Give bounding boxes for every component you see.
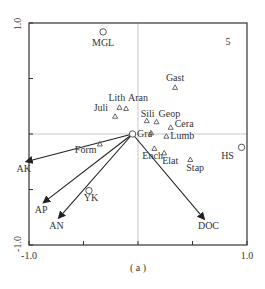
species-lumb: Lumb: [164, 130, 194, 141]
vector-label: AP: [35, 204, 48, 215]
triangle-marker: [144, 118, 149, 123]
species-label: Geop: [159, 108, 181, 119]
species-stap: Stap: [186, 157, 204, 173]
y-tick-min: -1.0: [12, 236, 23, 252]
corner-label: 5: [226, 36, 231, 47]
species-label: Elat: [162, 155, 178, 166]
species-label: Aran: [128, 92, 148, 103]
species-label: Stap: [186, 162, 204, 173]
species-points: GastAranLithJuliSiliGeopCeraGraLumbEnchE…: [75, 72, 204, 172]
species-ench: Ench: [142, 146, 163, 162]
circle-marker: [238, 144, 244, 150]
species-elat: Elat: [162, 150, 179, 166]
species-lith: Lith: [108, 92, 125, 109]
vector-label: AK: [17, 163, 32, 174]
circle-marker: [129, 131, 135, 137]
vector-label: DOC: [198, 220, 219, 231]
species-label: Sili: [141, 108, 155, 119]
site-mgl: MGL: [92, 29, 114, 48]
triangle-marker: [124, 106, 129, 111]
x-tick-max: 1.0: [241, 250, 254, 261]
site-yk: YK: [84, 187, 99, 202]
env-vector-doc: DOC: [133, 134, 220, 231]
triangle-marker: [168, 125, 173, 130]
species-label: Juli: [94, 102, 109, 113]
circle-marker: [100, 29, 106, 35]
site-label: HS: [221, 150, 234, 161]
site-label: MGL: [92, 37, 114, 48]
species-gast: Gast: [166, 72, 185, 89]
x-tick-min: -1.0: [21, 250, 37, 261]
triangle-marker: [113, 114, 118, 119]
species-cera: Cera: [168, 118, 194, 129]
vector-label: AN: [49, 220, 63, 231]
y-tick-max: 1.0: [12, 18, 23, 31]
figure-caption: ( a ): [130, 262, 146, 274]
environment-vectors: AKAPANDOC: [17, 134, 220, 231]
vector-arrow: [133, 134, 205, 219]
species-label: Lumb: [170, 130, 194, 141]
species-label: Cera: [175, 118, 194, 129]
species-label: Gra: [137, 128, 153, 139]
species-label: Gast: [166, 72, 185, 83]
species-juli: Juli: [94, 102, 118, 118]
species-gra: Gra: [137, 128, 154, 139]
species-form: Form: [75, 141, 103, 155]
triangle-marker: [154, 119, 159, 124]
site-origin: [129, 131, 135, 137]
triangle-marker: [117, 105, 122, 110]
site-label: YK: [84, 192, 99, 203]
triangle-marker: [173, 85, 178, 90]
species-label: Ench: [142, 150, 163, 161]
species-label: Lith: [108, 92, 125, 103]
ordination-biplot: AKAPANDOC GastAranLithJuliSiliGeopCeraGr…: [0, 0, 265, 289]
species-sili: Sili: [141, 108, 155, 123]
species-label: Form: [75, 144, 97, 155]
site-hs: HS: [221, 144, 245, 161]
